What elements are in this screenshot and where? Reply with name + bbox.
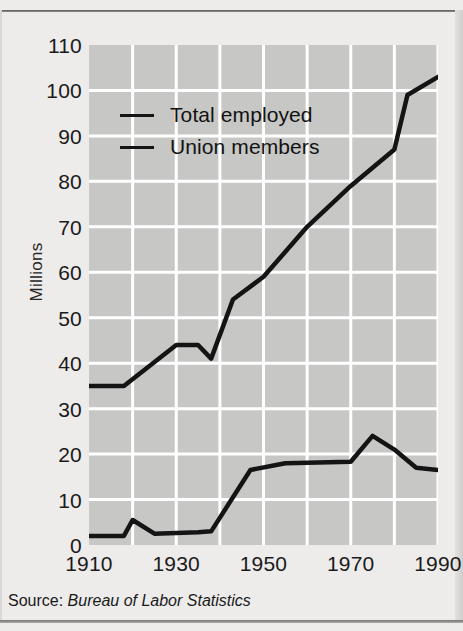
line-chart: Millions 0102030405060708090100110 Total… — [0, 0, 463, 631]
y-tick-label: 50 — [36, 308, 82, 329]
y-tick-label: 60 — [36, 262, 82, 283]
y-tick-label: 70 — [36, 217, 82, 238]
x-tick-label: 1930 — [152, 553, 200, 574]
source-prefix: Source: — [8, 592, 63, 609]
legend-item: Union members — [120, 132, 360, 164]
x-tick-label: 1950 — [240, 553, 288, 574]
y-tick-label: 10 — [36, 490, 82, 511]
y-tick-label: 90 — [36, 126, 82, 147]
x-axis-tick-labels: 19101930195019701990 — [0, 553, 463, 585]
y-axis-tick-labels: 0102030405060708090100110 — [28, 0, 82, 631]
legend-line-swatch — [120, 114, 154, 117]
source-name: Bureau of Labor Statistics — [68, 592, 251, 609]
x-tick-label: 1970 — [327, 553, 375, 574]
source-note: Source: Bureau of Labor Statistics — [8, 592, 251, 610]
y-tick-label: 110 — [36, 35, 82, 56]
chart-legend: Total employedUnion members — [120, 100, 360, 164]
y-tick-label: 100 — [36, 80, 82, 101]
legend-item: Total employed — [120, 100, 360, 132]
legend-label: Total employed — [170, 100, 313, 130]
y-tick-label: 80 — [36, 171, 82, 192]
x-tick-label: 1990 — [414, 553, 462, 574]
legend-line-swatch — [120, 146, 154, 149]
legend-label: Union members — [170, 132, 320, 162]
y-tick-label: 40 — [36, 353, 82, 374]
y-tick-label: 20 — [36, 444, 82, 465]
figure-page: Millions 0102030405060708090100110 Total… — [0, 0, 463, 631]
y-tick-label: 30 — [36, 399, 82, 420]
x-tick-label: 1910 — [65, 553, 113, 574]
